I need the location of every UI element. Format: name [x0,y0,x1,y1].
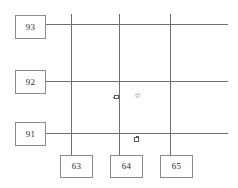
gridline-horizontal-91 [45,133,228,134]
coordinate-grid-diagram: 93 92 91 63 64 65 ☆ [0,0,238,188]
gridline-horizontal-92 [45,81,228,82]
gridline-vertical-65 [170,14,171,158]
y-axis-label-92: 92 [15,70,46,94]
y-axis-label-91: 91 [15,122,46,146]
gridline-vertical-63 [71,14,72,158]
data-point-square-marker [114,95,119,99]
y-axis-label-92-text: 92 [26,78,36,87]
gridline-horizontal-93 [45,24,228,25]
x-axis-label-65-text: 65 [172,162,182,171]
y-axis-label-91-text: 91 [26,130,36,139]
y-axis-label-93-text: 93 [26,23,36,32]
x-axis-label-63-text: 63 [72,162,82,171]
data-point-cup-marker [134,137,139,142]
x-axis-label-65: 65 [160,155,193,178]
x-axis-label-64-text: 64 [122,162,132,171]
data-point-star-marker: ☆ [134,92,141,100]
x-axis-label-64: 64 [110,155,143,178]
x-axis-label-63: 63 [60,155,93,178]
gridline-vertical-64 [119,14,120,158]
y-axis-label-93: 93 [15,15,46,39]
